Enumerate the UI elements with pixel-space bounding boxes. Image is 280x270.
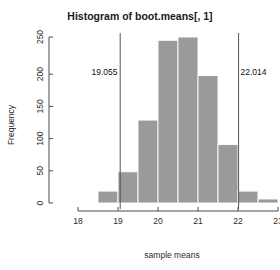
y-axis-label: Frequency — [6, 104, 16, 145]
histogram-bar — [98, 191, 118, 203]
x-tick-label-18: 18 — [73, 216, 83, 226]
histogram-bar — [118, 172, 138, 203]
histogram-bar — [178, 37, 198, 203]
y-tick-label-200: 200 — [35, 67, 45, 81]
x-tick-label-19: 19 — [113, 216, 123, 226]
y-axis: 0 50 100 150 200 250 — [35, 30, 53, 206]
x-tick-label-21: 21 — [193, 216, 203, 226]
y-tick-label-0: 0 — [35, 200, 45, 205]
histogram-bar — [238, 191, 258, 203]
histogram-bar — [198, 76, 218, 204]
upper-bound-label: 22.014 — [241, 67, 267, 77]
y-tick-label-100: 100 — [35, 131, 45, 145]
y-tick-label-150: 150 — [35, 99, 45, 113]
y-tick-label-50: 50 — [35, 166, 45, 176]
histogram-bar — [218, 145, 238, 203]
chart-title: Histogram of boot.means[, 1] — [67, 10, 212, 22]
x-tick-label-23: 23 — [273, 216, 280, 226]
x-axis-label: sample means — [144, 250, 199, 260]
histogram-bar — [158, 40, 178, 203]
y-tick-label-250: 250 — [35, 30, 45, 44]
histogram-bars — [98, 37, 278, 203]
lower-bound-label: 19.055 — [92, 67, 118, 77]
x-tick-label-20: 20 — [153, 216, 163, 226]
x-tick-label-22: 22 — [233, 216, 243, 226]
x-axis: 18 19 20 21 22 23 — [73, 207, 280, 226]
histogram-bar — [258, 199, 278, 203]
histogram-plot: Histogram of boot.means[, 1] Frequency s… — [0, 0, 280, 270]
histogram-bar — [138, 120, 158, 203]
